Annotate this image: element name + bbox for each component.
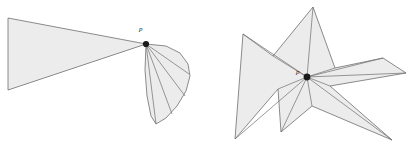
kernel-point-dot xyxy=(304,74,311,81)
left-point-label: p xyxy=(138,25,143,33)
right-point-label: p xyxy=(295,68,300,76)
fan-outline-polygon xyxy=(145,44,190,124)
left-apex-dot xyxy=(143,41,149,47)
figure-canvas: p p xyxy=(0,0,409,149)
wedge-polygon xyxy=(8,18,146,90)
diagram-svg: p p xyxy=(0,0,409,149)
left-figure-group: p xyxy=(8,18,190,124)
right-figure-group: p xyxy=(235,7,406,140)
